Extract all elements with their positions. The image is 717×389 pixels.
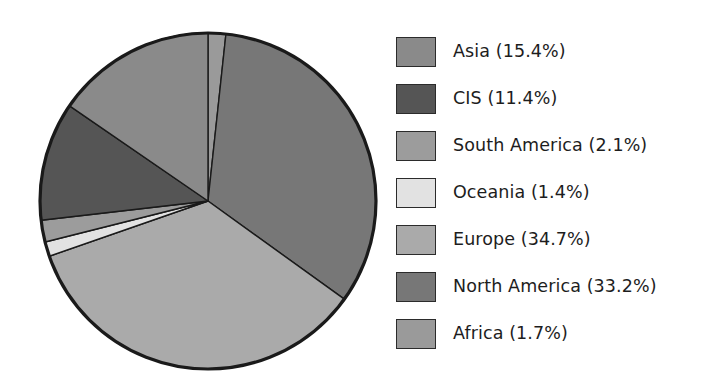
- legend-item-label: South America (2.1%): [453, 137, 647, 155]
- legend-color-swatch: [396, 225, 436, 255]
- legend-item[interactable]: CIS (11.4%): [396, 75, 701, 122]
- legend-color-swatch: [396, 272, 436, 302]
- legend-item-label: Europe (34.7%): [453, 231, 591, 249]
- legend-item[interactable]: Oceania (1.4%): [396, 169, 701, 216]
- legend-color-swatch: [396, 131, 436, 161]
- legend-color-swatch: [396, 37, 436, 67]
- legend-color-swatch: [396, 178, 436, 208]
- legend-color-swatch: [396, 84, 436, 114]
- chart-legend: Asia (15.4%)CIS (11.4%)South America (2.…: [396, 28, 701, 357]
- pie-chart-svg: [30, 22, 386, 372]
- legend-item[interactable]: North America (33.2%): [396, 263, 701, 310]
- legend-item-label: Africa (1.7%): [453, 325, 568, 343]
- legend-item-label: North America (33.2%): [453, 278, 657, 296]
- pie-slice-group: [40, 33, 376, 369]
- chart-page: Asia (15.4%)CIS (11.4%)South America (2.…: [0, 0, 717, 389]
- legend-item-label: Asia (15.4%): [453, 43, 566, 61]
- legend-item[interactable]: Europe (34.7%): [396, 216, 701, 263]
- legend-item-label: Oceania (1.4%): [453, 184, 590, 202]
- legend-item[interactable]: Asia (15.4%): [396, 28, 701, 75]
- legend-color-swatch: [396, 319, 436, 349]
- pie-chart: [30, 22, 386, 372]
- legend-item[interactable]: South America (2.1%): [396, 122, 701, 169]
- legend-item-label: CIS (11.4%): [453, 90, 557, 108]
- legend-item[interactable]: Africa (1.7%): [396, 310, 701, 357]
